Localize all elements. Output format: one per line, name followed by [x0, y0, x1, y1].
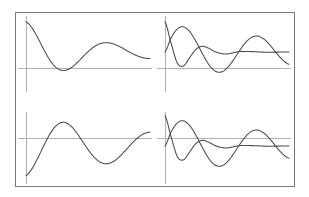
figure-root: [0, 0, 309, 197]
outer-frame: [16, 13, 295, 187]
plot-figure: [0, 0, 309, 197]
